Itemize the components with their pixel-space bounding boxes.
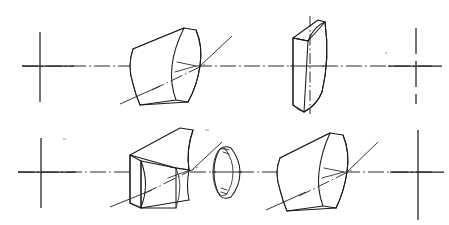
scan-artifacts (63, 52, 387, 140)
oblique-axis-through-body (145, 166, 200, 193)
scan-speck (63, 138, 66, 140)
oblique-axis-upper-tail (347, 142, 378, 172)
upper-left-crossmark (22, 32, 74, 102)
lens-concave-face-far (188, 130, 194, 200)
lower-disc (212, 147, 242, 199)
lens-plano-face (130, 28, 184, 105)
lower-right-crossmark (390, 130, 444, 220)
lens-plano-face (293, 38, 308, 112)
oblique-axis-upper-tail (200, 36, 232, 66)
lens-bottom-edge (141, 200, 189, 208)
lower-row-group (18, 128, 444, 220)
upper-right-crossmark (388, 28, 442, 104)
drawing-canvas (0, 0, 449, 225)
scan-speck (205, 129, 209, 131)
upper-lens-2 (290, 16, 327, 114)
lens-plano-face (277, 133, 330, 211)
scan-speck (385, 52, 387, 54)
lens-plano-face (130, 155, 141, 208)
lower-left-crossmark (18, 138, 76, 208)
axis-vertex-mark (322, 168, 344, 178)
lower-lens-2 (266, 133, 378, 211)
lens-concave-face-near (141, 161, 146, 207)
lower-lens-1 (110, 128, 222, 208)
disc-notch-bottom (221, 188, 227, 194)
oblique-axis-upper-tail (192, 142, 222, 170)
upper-row-group (22, 16, 442, 114)
lens-convex-face (304, 22, 327, 112)
technical-drawing-figure: Technical line drawing: two rows of cyli… (0, 0, 449, 225)
